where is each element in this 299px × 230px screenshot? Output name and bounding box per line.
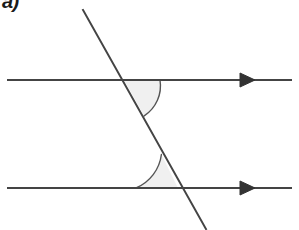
- geometry-figure: a): [0, 0, 299, 230]
- lower-shaded-angle: [136, 155, 178, 189]
- lower-line-arrowhead-icon: [240, 181, 255, 195]
- transversal-line: [83, 10, 206, 229]
- upper-shaded-angle: [124, 80, 160, 116]
- upper-line-arrowhead-icon: [240, 73, 255, 87]
- diagram-canvas: [0, 0, 299, 230]
